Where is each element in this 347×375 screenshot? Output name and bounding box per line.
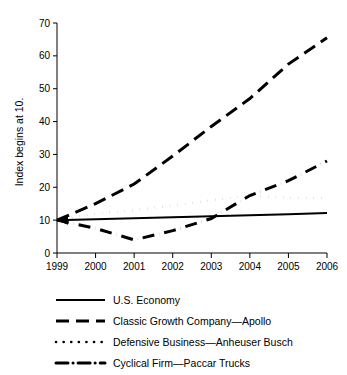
y-axis-title: Index begins at 10. — [13, 98, 25, 187]
x-axis-ticks: 19992000200120022003200420052006 — [46, 253, 339, 272]
series-line-1 — [57, 213, 327, 220]
x-tick-label: 2006 — [316, 261, 339, 272]
chart-legend: U.S. EconomyClassic Growth Company—Apoll… — [56, 294, 293, 369]
legend-label-3: Defensive Business—Anheuser Busch — [113, 336, 293, 348]
series-line-2 — [57, 38, 327, 220]
y-tick-label: 40 — [39, 116, 51, 127]
data-series-group — [56, 38, 327, 240]
y-tick-label: 30 — [39, 149, 51, 160]
legend-label-4: Cyclical Firm—Paccar Trucks — [113, 357, 250, 369]
y-tick-label: 20 — [39, 182, 51, 193]
chart-figure: Index begins at 10. 010203040506070 1999… — [0, 0, 347, 375]
y-tick-label: 50 — [39, 83, 51, 94]
x-tick-label: 2002 — [162, 261, 185, 272]
y-tick-label: 70 — [39, 18, 51, 29]
y-axis-title-text: Index begins at 10. — [13, 98, 25, 187]
line-chart: Index begins at 10. 010203040506070 1999… — [0, 0, 347, 375]
y-tick-label: 60 — [39, 50, 51, 61]
y-axis-ticks: 010203040506070 — [39, 18, 57, 259]
y-tick-label: 10 — [39, 215, 51, 226]
x-tick-label: 1999 — [46, 261, 69, 272]
legend-label-2: Classic Growth Company—Apollo — [113, 315, 271, 327]
series-line-4 — [57, 161, 327, 240]
x-tick-label: 2003 — [200, 261, 223, 272]
x-tick-label: 2004 — [239, 261, 262, 272]
x-tick-label: 2000 — [84, 261, 107, 272]
x-tick-label: 2001 — [123, 261, 146, 272]
y-tick-label: 0 — [44, 248, 50, 259]
legend-label-1: U.S. Economy — [113, 294, 181, 306]
x-tick-label: 2005 — [277, 261, 300, 272]
